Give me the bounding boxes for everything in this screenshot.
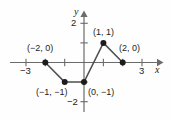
point-label-1-1: (1, 1) [93, 28, 114, 37]
graph-figure: y x −3 3 2 −2 (−2, 0) (−1, −1) (0, −1) (… [0, 0, 171, 119]
y-tick-label-pos2: 2 [71, 18, 76, 28]
data-point-marker [100, 40, 106, 46]
data-point-marker [81, 79, 87, 85]
x-tick-label-pos3: 3 [139, 66, 144, 76]
coordinate-plane [0, 0, 171, 119]
point-label-2-0: (2, 0) [119, 44, 140, 53]
y-tick-label-neg2: −2 [67, 97, 78, 107]
y-axis-arrow-icon [80, 11, 87, 18]
x-tick-label-neg3: −3 [20, 66, 31, 76]
point-label-0-neg1: (0, −1) [88, 88, 114, 97]
x-axis-label: x [155, 65, 159, 75]
data-point-marker [120, 60, 126, 66]
point-label-neg2-0: (−2, 0) [27, 44, 53, 53]
y-axis-label: y [74, 7, 78, 17]
data-point-marker [62, 79, 68, 85]
data-point-marker [42, 60, 48, 66]
point-label-neg1-neg1: (−1, −1) [36, 88, 68, 97]
